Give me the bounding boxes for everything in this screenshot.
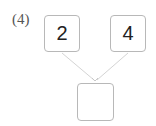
problem-number-label: (4) xyxy=(12,11,30,28)
left-number-box: 2 xyxy=(44,15,80,52)
right-number-box: 4 xyxy=(110,15,146,52)
answer-box[interactable] xyxy=(77,83,114,121)
